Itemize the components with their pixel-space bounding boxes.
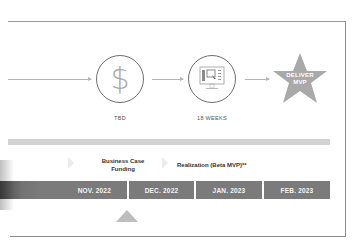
phase-business-case-line1: Business Case [88, 157, 158, 165]
milestone-funding-label: TBD [100, 115, 140, 121]
current-position-marker [116, 210, 138, 222]
timeline-band [8, 139, 330, 145]
monitor-wireframe-icon [197, 64, 227, 94]
left-edge-shadow [0, 160, 14, 210]
phase-business-case: Business Case Funding [88, 157, 158, 173]
dollar-icon: $ [110, 64, 129, 94]
frame-top-border [8, 21, 346, 22]
mvp-text: MVP [272, 79, 328, 86]
month-jan-2023: JAN. 2023 [196, 181, 262, 199]
phase-business-case-line2: Funding [88, 165, 158, 173]
flow-arrow-1 [152, 79, 183, 80]
month-feb-2023: FEB. 2023 [264, 181, 330, 199]
milestone-realization-label: 18 WEEKS [189, 115, 235, 121]
phase-chevron-2 [162, 157, 168, 169]
deliver-mvp-label: DELIVER MVP [272, 72, 328, 86]
frame-right-border [345, 21, 346, 237]
milestone-realization [188, 55, 236, 103]
month-dec-2022: DEC. 2022 [129, 181, 194, 199]
phase-realization-line1: Realization (Beta MVP)** [177, 161, 267, 169]
milestone-funding: $ [96, 55, 144, 103]
frame-bottom-border [10, 236, 346, 237]
deliver-text: DELIVER [272, 72, 328, 79]
month-nov-2022: NOV. 2022 [0, 181, 127, 199]
flow-arrow-start [8, 79, 91, 80]
phase-realization: Realization (Beta MVP)** [177, 161, 267, 169]
phase-chevron-1 [68, 157, 74, 169]
flow-arrow-2 [245, 79, 269, 80]
